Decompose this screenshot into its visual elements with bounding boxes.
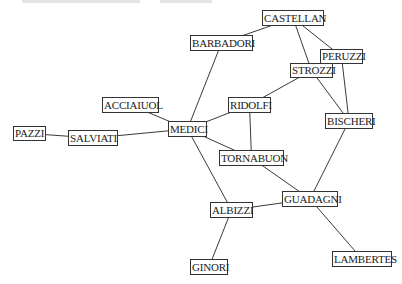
node-salviati: SALVIATI <box>68 130 118 146</box>
edge-bischeri-guadagni <box>310 121 349 199</box>
node-medici: MEDICI <box>168 121 207 137</box>
node-ridolfi: RIDOLFI <box>228 97 271 113</box>
node-albizzi: ALBIZZI <box>210 202 253 218</box>
network-diagram: CASTELLANBARBADORIPERUZZISTROZZIACCIAIUO… <box>0 0 402 284</box>
node-acciaiuol: ACCIAIUOL <box>102 97 159 113</box>
edge-peruzzi-bischeri <box>342 57 350 122</box>
node-guadagni: GUADAGNI <box>282 191 338 207</box>
node-castellan: CASTELLAN <box>262 10 324 26</box>
node-peruzzi: PERUZZI <box>320 49 363 64</box>
node-barbadori: BARBADORI <box>190 35 253 51</box>
node-ginori: GINORI <box>190 259 228 275</box>
edge-medici-albizzi <box>188 129 232 210</box>
node-strozzi: STROZZI <box>290 63 333 78</box>
node-bischeri: BISCHERI <box>325 113 373 129</box>
edge-guadagni-lambertes <box>310 199 362 259</box>
node-lambertes: LAMBERTES <box>332 251 392 267</box>
edge-barbadori-medici <box>188 43 222 129</box>
node-pazzi: PAZZI <box>13 126 46 141</box>
node-tornabuon: TORNABUON <box>219 150 284 166</box>
